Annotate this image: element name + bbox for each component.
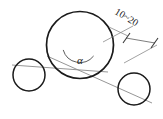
- right-center-line: [47, 56, 152, 103]
- dimension-extension-left: [103, 26, 133, 42]
- left-small-circle: [13, 59, 45, 91]
- large-circle: [47, 12, 114, 79]
- diagram-canvas: α 10~20: [0, 0, 163, 119]
- dimension-label: 10~20: [113, 6, 140, 29]
- right-small-circle: [118, 73, 150, 105]
- dimension-line: [126, 38, 155, 43]
- technical-drawing: α 10~20: [0, 0, 163, 119]
- angle-label: α: [77, 54, 83, 66]
- dimension-extension-right: [124, 45, 157, 63]
